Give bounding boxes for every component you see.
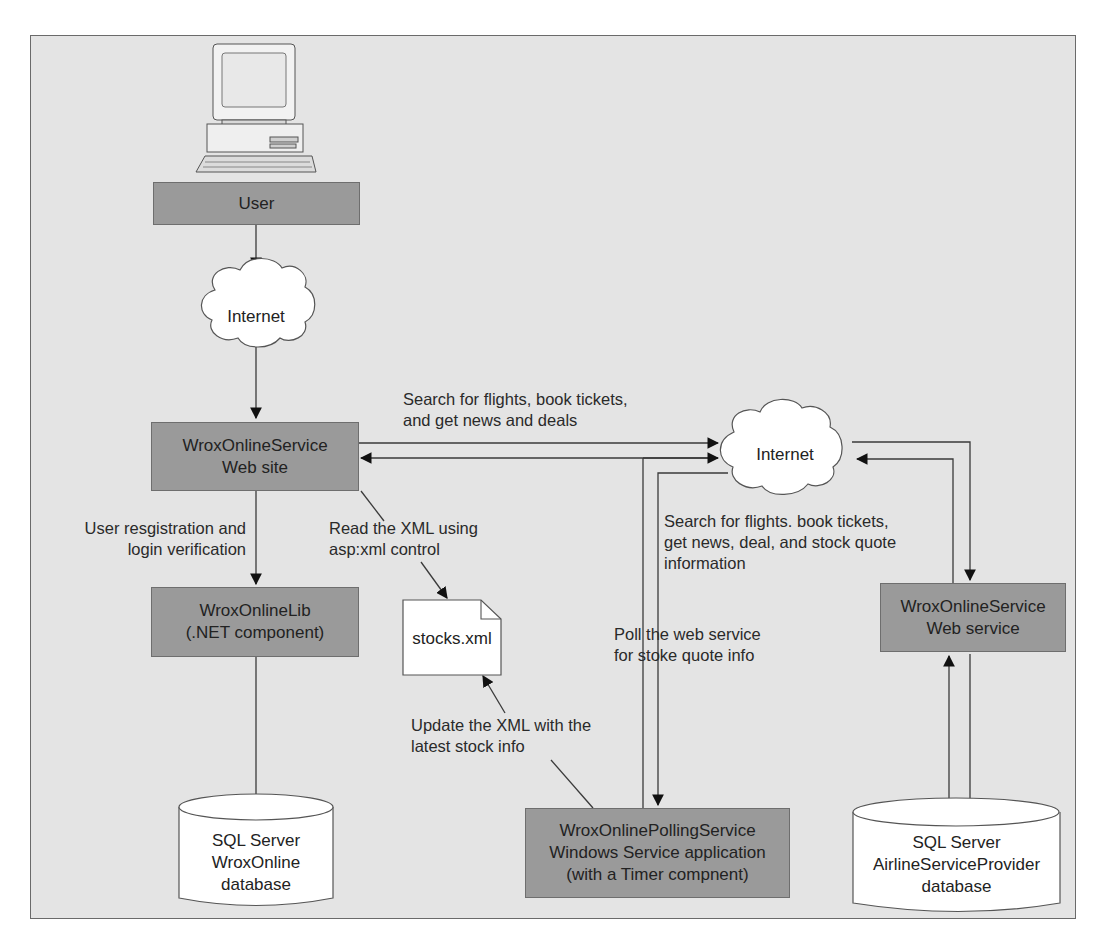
- webservice-box: WroxOnlineService Web service: [880, 583, 1066, 652]
- edge-label-line: Poll the web service: [614, 624, 761, 645]
- db-airline-line1: SQL Server: [853, 832, 1060, 854]
- polling-line3: (with a Timer compnent): [566, 864, 748, 886]
- lib-line2: (.NET component): [186, 622, 325, 644]
- computer-icon: [196, 44, 316, 172]
- webservice-line2: Web service: [926, 618, 1019, 640]
- database-wroxonline-label: SQL Server WroxOnline database: [179, 830, 333, 896]
- stocks-xml-label: stocks.xml: [403, 628, 501, 650]
- edge-label-poll: Poll the web service for stoke quote inf…: [614, 624, 761, 666]
- edge-label-line: Search for flights, book tickets,: [403, 389, 628, 410]
- polling-service-box: WroxOnlinePollingService Windows Service…: [525, 808, 790, 898]
- cloud-internet-top: [201, 259, 314, 348]
- edge-label-line: login verification: [48, 539, 246, 560]
- polling-line1: WroxOnlinePollingService: [559, 820, 755, 842]
- edge-label-line: and get news and deals: [403, 410, 628, 431]
- db-airline-line3: database: [853, 876, 1060, 898]
- polling-line2: Windows Service application: [549, 842, 765, 864]
- edge-label-search-top: Search for flights, book tickets, and ge…: [403, 389, 628, 431]
- edge-label-line: asp:xml control: [329, 539, 478, 560]
- internet-right-label: Internet: [735, 444, 835, 466]
- website-line1: WroxOnlineService: [182, 435, 327, 457]
- edge-label-line: Search for flights. book tickets,: [664, 511, 896, 532]
- website-line2: Web site: [222, 457, 288, 479]
- db-wroxonline-line3: database: [179, 874, 333, 896]
- edge-label-update-xml: Update the XML with the latest stock inf…: [411, 715, 591, 757]
- db-airline-line2: AirlineServiceProvider: [853, 854, 1060, 876]
- lib-line1: WroxOnlineLib: [199, 600, 310, 622]
- edge-label-line: for stoke quote info: [614, 645, 761, 666]
- edge-label-line: User resgistration and: [48, 518, 246, 539]
- db-wroxonline-line1: SQL Server: [179, 830, 333, 852]
- database-airline-label: SQL Server AirlineServiceProvider databa…: [853, 832, 1060, 898]
- website-box: WroxOnlineService Web site: [151, 422, 359, 491]
- lib-box: WroxOnlineLib (.NET component): [151, 587, 359, 657]
- edge-label-registration: User resgistration and login verificatio…: [48, 518, 246, 560]
- internet-top-label: Internet: [206, 306, 306, 328]
- edge-label-line: latest stock info: [411, 736, 591, 757]
- edge-label-search-right: Search for flights. book tickets, get ne…: [664, 511, 896, 574]
- webservice-line1: WroxOnlineService: [900, 596, 1045, 618]
- edge-label-line: information: [664, 553, 896, 574]
- user-label: User: [239, 193, 275, 215]
- edge-label-line: get news, deal, and stock quote: [664, 532, 896, 553]
- edge-label-line: Read the XML using: [329, 518, 478, 539]
- user-box: User: [153, 182, 360, 225]
- db-wroxonline-line2: WroxOnline: [179, 852, 333, 874]
- edge-label-read-xml: Read the XML using asp:xml control: [329, 518, 478, 560]
- edge-label-line: Update the XML with the: [411, 715, 591, 736]
